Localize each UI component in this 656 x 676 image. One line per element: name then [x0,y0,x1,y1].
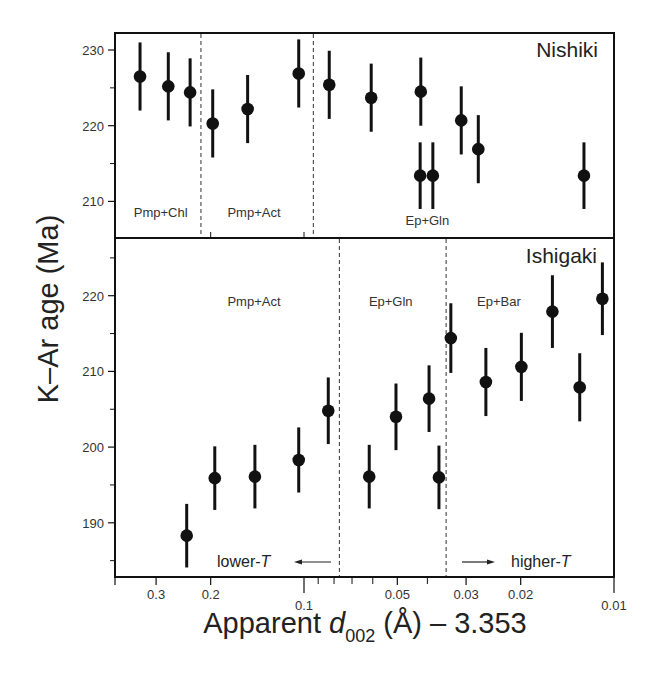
chart: 210220230Pmp+ChlPmp+ActEp+Gln 1902002102… [0,0,656,676]
zone-label: Pmp+Act [227,205,280,220]
lower-t-label: lower-T [217,553,272,570]
data-point [578,142,591,209]
data-point [241,75,254,143]
y-tick-label: 200 [82,440,104,455]
x-tick-label: 0.2 [202,587,220,602]
data-point [414,142,427,209]
data-marker [134,70,147,83]
data-point [546,275,559,348]
data-point [363,445,376,509]
data-marker [455,114,468,127]
x-tick-label: 0.05 [385,587,410,602]
zone-label: Pmp+Chl [134,205,188,220]
data-marker [363,470,376,483]
data-marker [423,392,436,405]
data-point [184,58,197,126]
data-marker [162,80,175,93]
panel-title-nishiki: Nishiki [536,38,598,61]
panel-ishigaki: 190200210220Pmp+ActEp+GlnEp+Bar [82,238,614,577]
panel-nishiki: 210220230Pmp+ChlPmp+ActEp+Gln [82,33,614,238]
data-point [208,446,221,510]
data-marker [480,376,493,389]
left-arrow-icon [294,560,302,565]
y-tick-label: 220 [82,289,104,304]
data-point [427,142,440,209]
higher-t-label: higher-T [511,553,572,570]
right-arrow-icon [487,560,495,565]
data-point [292,39,305,107]
y-tick-label: 220 [82,119,104,134]
y-tick-label: 190 [82,516,104,531]
data-point [390,384,403,451]
y-tick-label: 210 [82,194,104,209]
data-marker [573,381,586,394]
data-point [472,115,485,183]
data-marker [249,470,262,483]
data-marker [427,169,440,182]
data-marker [208,472,221,485]
data-marker [390,411,403,424]
data-point [573,353,586,421]
data-point [414,58,427,126]
x-axis-title-rest: (Å) – 3.353 [375,607,527,639]
k-ar-age-vs-d002-chart: 210220230Pmp+ChlPmp+ActEp+Gln 1902002102… [0,0,656,676]
data-point [322,377,335,444]
data-point [206,89,219,157]
higher-t-annotation: higher-T [462,553,572,570]
x-axis-title: Apparent d002 (Å) – 3.353 [203,607,526,646]
data-point [455,86,468,154]
y-tick-label: 230 [82,43,104,58]
data-marker [180,529,193,542]
data-marker [292,67,305,80]
x-axis-title-sub: 002 [345,626,375,646]
data-marker [414,85,427,98]
x-tick-label: 0.03 [453,587,478,602]
y-tick-label: 210 [82,364,104,379]
data-marker [292,454,305,467]
data-point [134,42,147,110]
data-marker [322,404,335,417]
zone-label: Ep+Gln [405,213,449,228]
data-marker [472,143,485,156]
x-tick-label: 0.02 [508,587,533,602]
y-axis-title: K–Ar age (Ma) [32,215,64,404]
x-axis-title-main: Apparent [203,607,329,639]
data-marker [323,79,336,92]
data-point [515,333,528,401]
x-tick-label: 0.3 [147,587,165,602]
data-marker [578,169,591,182]
panel-frame [115,238,614,577]
data-point [162,52,175,120]
data-point [445,303,458,373]
data-point [596,262,609,335]
data-marker [365,91,378,104]
data-marker [433,471,446,484]
x-tick-label: 0.01 [601,598,626,613]
x-axis-title-d: d [329,607,346,639]
lower-t-annotation: lower-T [217,553,331,570]
data-point [433,446,446,510]
data-point [480,348,493,416]
data-point [323,51,336,119]
data-point [249,445,262,509]
data-point [180,504,193,568]
data-marker [445,332,458,345]
zone-label: Ep+Bar [477,294,521,309]
data-marker [241,103,254,116]
data-marker [596,292,609,305]
zone-label: Ep+Gln [369,294,413,309]
data-point [292,427,305,492]
data-marker [546,305,559,318]
data-marker [184,86,197,99]
zone-label: Pmp+Act [227,294,280,309]
data-point [423,365,436,432]
data-marker [206,117,219,130]
panel-title-ishigaki: Ishigaki [526,244,597,267]
data-marker [515,361,528,374]
data-point [365,64,378,132]
data-marker [414,169,427,182]
